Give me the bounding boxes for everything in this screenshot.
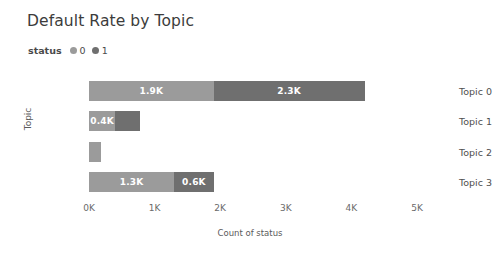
bar-segment[interactable]: 0.4K	[89, 111, 115, 131]
bar-segment[interactable]	[89, 142, 101, 162]
x-axis-tick-label: 2K	[214, 203, 226, 213]
x-axis-tick-label: 3K	[280, 203, 292, 213]
bar-row[interactable]: 1.9K2.3K	[89, 81, 417, 101]
bar-segment[interactable]: 1.3K	[89, 172, 174, 192]
legend-label-1: 1	[102, 45, 108, 56]
bar-segment[interactable]	[115, 111, 140, 131]
legend-item-1[interactable]: 1	[92, 45, 108, 56]
bar-value-label: 1.3K	[120, 177, 144, 187]
y-axis-tick-label: Topic 0	[432, 86, 492, 97]
bar-row[interactable]: 1.3K0.6K	[89, 172, 417, 192]
bar-row[interactable]: 0.4K	[89, 111, 417, 131]
y-axis-tick-label: Topic 2	[432, 146, 492, 157]
bar-segment[interactable]: 2.3K	[214, 81, 365, 101]
plot-area: 1.9K2.3K0.4K1.3K0.6K	[89, 76, 417, 197]
y-axis-tick-label: Topic 1	[432, 116, 492, 127]
x-axis-tick-label: 1K	[149, 203, 161, 213]
legend-title: status	[28, 45, 62, 56]
x-axis-tick-label: 0K	[83, 203, 95, 213]
bar-segment[interactable]: 0.6K	[174, 172, 213, 192]
bar-row[interactable]	[89, 142, 417, 162]
chart-title: Default Rate by Topic	[27, 12, 194, 30]
legend-label-0: 0	[80, 45, 86, 56]
y-axis-tick-label: Topic 3	[432, 176, 492, 187]
legend: status 0 1	[28, 45, 108, 56]
bar-value-label: 2.3K	[277, 86, 301, 96]
legend-swatch-1-icon	[92, 47, 100, 55]
x-axis-tick-label: 4K	[346, 203, 358, 213]
x-axis-tick-label: 5K	[411, 203, 423, 213]
x-axis-title: Count of status	[218, 228, 283, 238]
y-axis-title: Topic	[23, 108, 33, 131]
bar-segment[interactable]: 1.9K	[89, 81, 214, 101]
bar-value-label: 0.6K	[182, 177, 206, 187]
bar-value-label: 1.9K	[139, 86, 163, 96]
bar-value-label: 0.4K	[90, 116, 114, 126]
chart-container: Default Rate by Topic status 0 1 Topic T…	[0, 0, 500, 254]
legend-swatch-0-icon	[70, 47, 78, 55]
legend-item-0[interactable]: 0	[70, 45, 86, 56]
